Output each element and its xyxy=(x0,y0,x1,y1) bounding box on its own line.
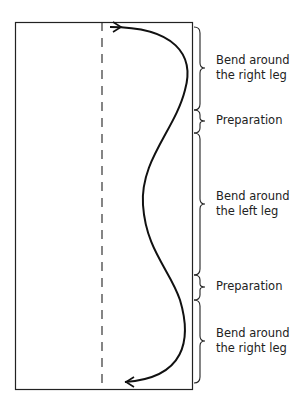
brace-2 xyxy=(194,110,205,133)
label-line: the right leg xyxy=(216,341,290,356)
brace-5 xyxy=(194,300,205,383)
brace-1 xyxy=(194,27,205,110)
label-line: the left leg xyxy=(216,204,290,219)
label-line: Bend around xyxy=(216,326,290,341)
label-preparation-1: Preparation xyxy=(216,113,282,128)
label-bend-left-leg: Bend around the left leg xyxy=(216,189,290,219)
label-line: the right leg xyxy=(216,68,290,83)
path-curve xyxy=(110,27,187,382)
label-line: Preparation xyxy=(216,113,282,128)
frame-rectangle xyxy=(16,23,193,390)
label-bend-right-leg-bottom: Bend around the right leg xyxy=(216,326,290,356)
brace-4 xyxy=(194,275,205,300)
label-line: Preparation xyxy=(216,279,282,294)
label-line: Bend around xyxy=(216,53,290,68)
label-line: Bend around xyxy=(216,189,290,204)
brace-3 xyxy=(194,133,205,275)
label-bend-right-leg-top: Bend around the right leg xyxy=(216,53,290,83)
label-preparation-2: Preparation xyxy=(216,279,282,294)
